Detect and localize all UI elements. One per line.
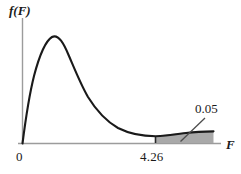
f-distribution-figure: f(F) F 0 4.26 0.05 <box>0 0 241 174</box>
density-curve <box>23 36 214 143</box>
x-axis-label: F <box>226 138 235 151</box>
y-axis-label: f(F) <box>9 4 31 17</box>
critical-value-tick-label: 4.26 <box>140 150 164 163</box>
tail-area-annotation-label: 0.05 <box>195 102 218 115</box>
distribution-plot <box>0 0 241 174</box>
origin-tick-label: 0 <box>16 150 23 163</box>
